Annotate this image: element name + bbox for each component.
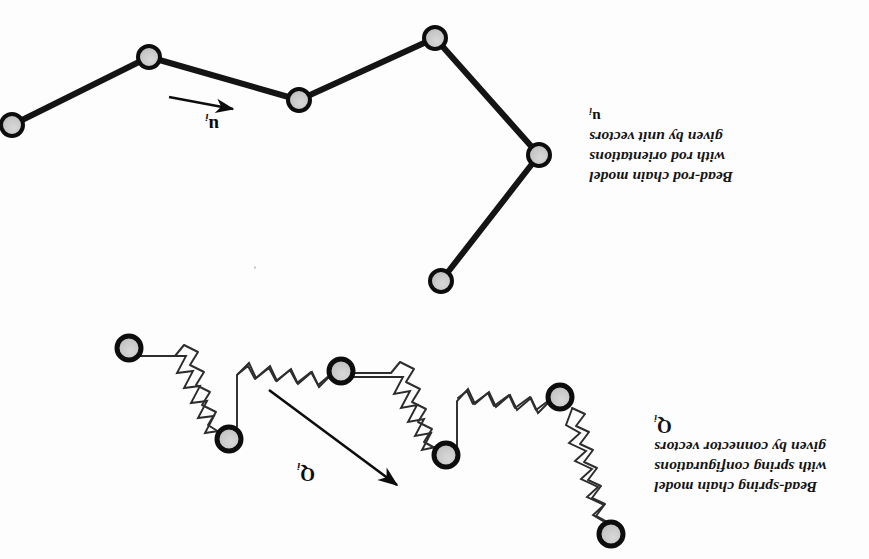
q-symbol: Q [657,416,672,437]
u-vector-label-subscript: i [205,112,208,124]
u-vector-label-symbol: u [208,115,219,136]
bead-rod-chain-group [1,27,550,292]
caption-bead-spring-line-3: given by connector vectors [654,437,869,457]
rod-3 [299,38,435,100]
spring-seg-5 [140,345,219,432]
q-vector-label-symbol: Q [300,464,315,485]
caption-bead-rod: Bead-rod chain model with rod orientatio… [589,101,829,187]
bead [138,46,160,68]
spring-connectors [139,356,604,521]
q-vector-label-subscript: i [297,461,300,473]
bead [424,27,446,49]
bead-rod-beads [1,27,550,292]
q-vector-label: Qi [297,461,315,485]
u-symbol-inline: u [592,109,601,126]
caption-bead-spring-line-2: with spring configurations [654,457,869,477]
rod-1 [441,155,539,281]
bead [117,336,141,360]
bead [430,270,452,292]
rod-connectors [12,38,539,281]
q-symbol-subscript: i [654,413,657,424]
figure-page: · · · · · · · · · · · · · · [0,0,869,559]
bead-spring-chain-group [117,336,623,546]
bead [548,385,572,409]
caption-bead-spring: Bead-spring chain model with spring conf… [654,408,869,497]
rod-2 [435,38,539,155]
caption-bead-spring-line-1: Bead-spring chain model [654,477,869,497]
caption-bead-rod-line-1: Bead-rod chain model [589,167,829,187]
u-vector-arrow [169,97,233,109]
caption-bead-rod-line-2: with rod orientations [589,147,829,167]
bead [1,114,23,136]
bead [599,522,623,546]
bead [217,427,241,451]
rotated-figure-container: Bead-spring chain model with spring conf… [0,0,869,559]
rod-5 [12,57,149,125]
u-symbol-inline-subscript: i [589,106,592,117]
bead [329,359,353,383]
bead [434,443,458,467]
caption-bead-spring-symbol: Qi [654,408,869,436]
u-vector-label: ui [205,112,219,136]
caption-bead-rod-line-3: given by unit vectors [589,127,829,147]
bead [288,89,310,111]
q-vector-arrow [269,390,397,485]
spring-connectors-zigzag [140,345,607,522]
spring-5 [139,356,219,433]
scan-speck [254,266,256,269]
spring-1 [566,409,604,521]
rod-4 [149,57,299,100]
bead [528,144,550,166]
spring-seg-2 [458,391,548,410]
